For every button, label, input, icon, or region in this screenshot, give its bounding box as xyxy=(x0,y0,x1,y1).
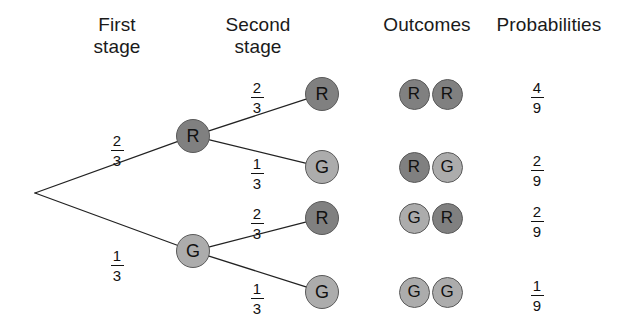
fraction-bar xyxy=(111,265,124,266)
fraction-bar xyxy=(531,97,544,98)
node-stage1-G: G xyxy=(176,234,210,268)
outcome-GG-probability: 19 xyxy=(520,278,554,313)
node-stage2-G-G: G xyxy=(305,275,339,309)
branch-prob-second-GG: 13 xyxy=(240,281,274,316)
outcome-GG-ball-2: G xyxy=(432,277,463,308)
header-probabilities: Probabilities xyxy=(459,14,639,36)
fraction-bar xyxy=(531,170,544,171)
fraction-denominator: 3 xyxy=(100,267,134,283)
fraction-numerator: 1 xyxy=(240,156,274,172)
fraction-bar xyxy=(251,97,264,98)
fraction-bar xyxy=(531,221,544,222)
outcome-GR-ball-2: R xyxy=(432,203,463,234)
fraction-numerator: 2 xyxy=(520,153,554,169)
fraction-denominator: 9 xyxy=(520,172,554,188)
fraction-bar xyxy=(251,223,264,224)
fraction-numerator: 4 xyxy=(520,80,554,96)
outcome-GR-probability: 29 xyxy=(520,204,554,239)
fraction-bar xyxy=(251,173,264,174)
edge-root-G xyxy=(35,193,178,245)
fraction-denominator: 3 xyxy=(240,99,274,115)
fraction-numerator: 2 xyxy=(240,80,274,96)
fraction-numerator: 2 xyxy=(520,204,554,220)
fraction-numerator: 1 xyxy=(100,248,134,264)
fraction-bar xyxy=(251,298,264,299)
fraction-denominator: 9 xyxy=(520,297,554,313)
branch-prob-first-G: 13 xyxy=(100,248,134,283)
fraction-denominator: 3 xyxy=(240,225,274,241)
branch-prob-second-RG: 13 xyxy=(240,156,274,191)
outcome-RR-ball-1: R xyxy=(399,79,430,110)
outcome-RR-probability: 49 xyxy=(520,80,554,115)
outcome-RG-probability: 29 xyxy=(520,153,554,188)
node-stage2-R-G: G xyxy=(305,150,339,184)
fraction-denominator: 9 xyxy=(520,223,554,239)
fraction-bar xyxy=(111,150,124,151)
outcome-GR-ball-1: G xyxy=(399,203,430,234)
fraction-numerator: 1 xyxy=(520,278,554,294)
fraction-denominator: 3 xyxy=(240,300,274,316)
fraction-denominator: 9 xyxy=(520,99,554,115)
node-stage1-R: R xyxy=(176,119,210,153)
fraction-numerator: 2 xyxy=(240,206,274,222)
outcome-RG-ball-2: G xyxy=(432,152,463,183)
outcome-RG-ball-1: R xyxy=(399,152,430,183)
fraction-bar xyxy=(531,295,544,296)
probability-tree-diagram: First stageSecond stageOutcomesProbabili… xyxy=(0,0,639,335)
fraction-denominator: 3 xyxy=(100,152,134,168)
outcome-GG-ball-1: G xyxy=(399,277,430,308)
fraction-denominator: 3 xyxy=(240,175,274,191)
branch-prob-second-RR: 23 xyxy=(240,80,274,115)
node-stage2-R-R: R xyxy=(305,77,339,111)
node-stage2-G-R: R xyxy=(305,201,339,235)
branch-prob-second-GR: 23 xyxy=(240,206,274,241)
fraction-numerator: 2 xyxy=(100,133,134,149)
branch-prob-first-R: 23 xyxy=(100,133,134,168)
fraction-numerator: 1 xyxy=(240,281,274,297)
header-second-stage: Second stage xyxy=(168,14,348,58)
outcome-RR-ball-2: R xyxy=(432,79,463,110)
